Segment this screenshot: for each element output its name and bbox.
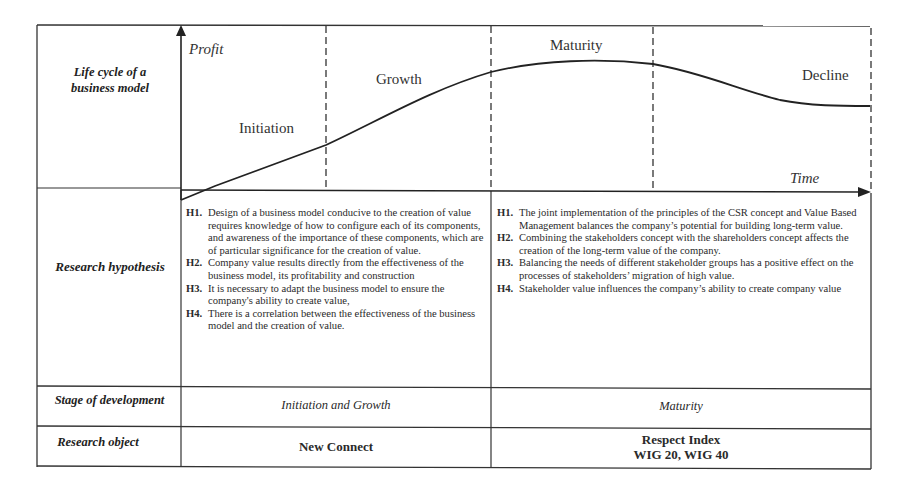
stage-label-decline: Decline <box>802 67 849 84</box>
hypothesis-item: H2. Company value results directly from … <box>186 257 488 282</box>
hypotheses-left: H1. Design of a business model conducive… <box>186 207 488 333</box>
research-object-left: New Connect <box>182 439 490 455</box>
hypotheses-right: H1. The joint implementation of the prin… <box>497 207 867 295</box>
hypothesis-id: H3. <box>497 257 519 282</box>
row-label-life-cycle: Life cycle of a business model <box>40 64 180 96</box>
hypothesis-text: The joint implementation of the principl… <box>519 207 867 232</box>
hypothesis-id: H4. <box>186 308 208 333</box>
hypothesis-text: Combining the stakeholders concept with … <box>519 232 867 257</box>
hypothesis-id: H1. <box>497 207 519 232</box>
row-label-life-cycle-line1: Life cycle of a <box>40 64 180 80</box>
research-object-right-line1: Respect Index <box>491 432 871 447</box>
x-axis <box>181 190 862 192</box>
hypothesis-text: Stakeholder value influences the company… <box>519 283 867 296</box>
hypothesis-item: H1. The joint implementation of the prin… <box>497 207 867 232</box>
hypothesis-id: H1. <box>186 207 208 257</box>
stage-of-development-left: Initiation and Growth <box>182 398 490 413</box>
hypothesis-item: H4. Stakeholder value influences the com… <box>497 283 867 296</box>
stage-of-development-right: Maturity <box>491 399 871 414</box>
stage-label-maturity: Maturity <box>550 37 603 54</box>
hypothesis-id: H2. <box>497 232 519 257</box>
hypothesis-item: H3. Balancing the needs of different sta… <box>497 257 867 282</box>
hypothesis-item: H4. There is a correlation between the e… <box>186 308 488 333</box>
x-axis-arrow-icon <box>858 187 871 197</box>
y-axis-arrow-icon <box>176 25 186 36</box>
hypothesis-text: Balancing the needs of different stakeho… <box>519 257 867 282</box>
hypothesis-id: H2. <box>186 257 208 282</box>
hypothesis-id: H3. <box>186 283 208 308</box>
hypothesis-text: Design of a business model conducive to … <box>208 207 488 257</box>
x-axis-label: Time <box>790 170 819 187</box>
hypothesis-item: H1. Design of a business model conducive… <box>186 207 488 257</box>
row-label-object: Research object <box>38 434 158 450</box>
research-object-right: Respect Index WIG 20, WIG 40 <box>491 432 871 462</box>
stage-label-initiation: Initiation <box>239 120 294 137</box>
row-label-life-cycle-line2: business model <box>40 80 180 96</box>
row-divider-2 <box>37 386 871 389</box>
hypothesis-text: There is a correlation between the effec… <box>208 308 488 333</box>
hypothesis-item: H3. It is necessary to adapt the busines… <box>186 283 488 308</box>
table-border-bottom <box>37 466 871 469</box>
hypothesis-id: H4. <box>497 283 519 296</box>
y-axis-label: Profit <box>189 41 223 58</box>
row-label-hypothesis: Research hypothesis <box>40 259 180 275</box>
hypothesis-text: It is necessary to adapt the business mo… <box>208 283 488 308</box>
row-label-stage: Stage of development <box>38 392 181 408</box>
stage-label-growth: Growth <box>376 71 422 88</box>
hypothesis-item: H2. Combining the stakeholders concept w… <box>497 232 867 257</box>
row-divider-3 <box>37 426 871 429</box>
research-object-right-line2: WIG 20, WIG 40 <box>491 447 871 462</box>
hypothesis-text: Company value results directly from the … <box>208 257 488 282</box>
table-border-top <box>37 25 870 26</box>
